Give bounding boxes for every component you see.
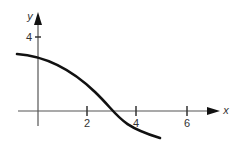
y-axis-label: y <box>26 10 34 22</box>
chart-svg: 2 4 6 4 x y <box>0 0 238 146</box>
x-axis-label: x <box>222 104 229 116</box>
y-tick-label-4: 4 <box>26 31 32 43</box>
x-tick-label-6: 6 <box>184 117 190 129</box>
x-axis-arrow-icon <box>207 107 220 115</box>
chart-container: 2 4 6 4 x y <box>0 0 238 146</box>
x-tick-label-2: 2 <box>84 117 90 129</box>
y-axis-arrow-icon <box>34 12 42 25</box>
